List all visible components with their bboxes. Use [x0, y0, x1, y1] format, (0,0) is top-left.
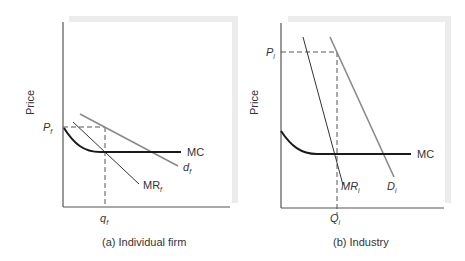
price-label: Pf	[43, 121, 53, 135]
mr-label: MRf	[143, 179, 163, 193]
panel-frame-top	[288, 16, 451, 22]
y-axis-label: Price	[24, 90, 36, 115]
y-axis-label: Price	[248, 90, 260, 115]
demand-curve	[80, 114, 178, 166]
price-label: Pi	[266, 46, 275, 60]
marginal-cost-curve	[64, 128, 181, 152]
quantity-label: qf	[100, 212, 109, 226]
panel-frame-top	[69, 16, 238, 22]
panel-individual-firm: Price Pf qf MC df MRf (a) Individual fir…	[24, 16, 238, 248]
caption-industry: (b) Industry	[333, 236, 389, 248]
demand-label: Di	[387, 180, 397, 194]
demand-label: df	[183, 161, 192, 175]
mc-label: MC	[187, 146, 204, 158]
panel-frame-right	[232, 16, 238, 203]
mc-label: MC	[417, 148, 434, 160]
panel-industry: Price Pi Qi MC Di MRi (b) Industry	[248, 16, 451, 248]
panel-frame-right	[445, 16, 451, 203]
marginal-cost-curve	[281, 131, 411, 154]
quantity-label: Qi	[330, 212, 341, 226]
mr-label: MRi	[341, 180, 360, 194]
demand-curve	[330, 37, 394, 177]
caption-individual-firm: (a) Individual firm	[102, 236, 186, 248]
figure: Price Pf qf MC df MRf (a) Individual fir…	[0, 0, 465, 261]
